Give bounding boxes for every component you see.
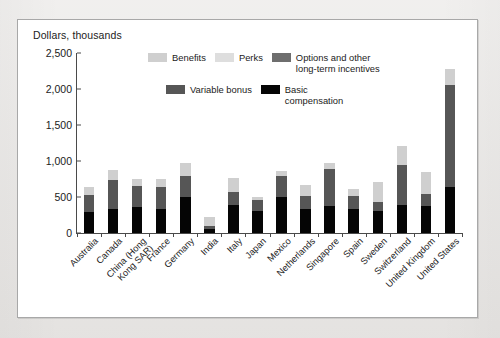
bar-group[interactable]	[348, 189, 359, 233]
bar-segment-benefits	[445, 69, 456, 85]
bar-group[interactable]	[252, 197, 263, 233]
bar-segment-variable	[84, 195, 95, 212]
x-axis-label: Australia	[68, 236, 101, 269]
y-tick-label: 1,000	[46, 155, 72, 167]
y-axis-title: Dollars, thousands	[33, 29, 122, 41]
bar-segment-basic	[132, 207, 143, 233]
x-axis-label: Japan	[244, 236, 269, 261]
bar-segment-variable	[348, 196, 359, 209]
y-tick-label: 2,500	[46, 47, 72, 59]
chart-figure-panel: Dollars, thousands Benefits Perks Option…	[17, 19, 478, 318]
bar-segment-basic	[228, 205, 239, 233]
bar-group[interactable]	[421, 172, 432, 233]
bar-segment-basic	[300, 209, 311, 233]
bar-series-container	[77, 53, 462, 233]
bar-segment-benefits	[108, 170, 119, 180]
bar-segment-variable	[228, 192, 239, 205]
x-axis-label: India	[199, 236, 220, 257]
screenshot-root: Dollars, thousands Benefits Perks Option…	[0, 0, 500, 338]
bar-segment-benefits	[204, 217, 215, 226]
bar-segment-basic	[373, 211, 384, 233]
bar-group[interactable]	[180, 163, 191, 233]
bar-segment-variable	[324, 169, 335, 206]
bar-segment-variable	[132, 186, 143, 207]
bar-group[interactable]	[373, 182, 384, 233]
bar-group[interactable]	[324, 163, 335, 233]
bar-segment-basic	[204, 229, 215, 233]
bar-segment-variable	[373, 202, 384, 210]
plot-area: 05001,0001,5002,0002,500	[76, 53, 462, 234]
bar-segment-variable	[276, 176, 287, 197]
bar-group[interactable]	[132, 179, 143, 233]
x-axis-labels: AustraliaCanadaChina (Hong Kong SAR)Fran…	[76, 236, 461, 316]
y-tick-label: 1,500	[46, 119, 72, 131]
bar-group[interactable]	[204, 217, 215, 233]
bar-segment-variable	[108, 180, 119, 209]
bar-group[interactable]	[397, 146, 408, 233]
bar-segment-basic	[348, 209, 359, 233]
bar-segment-basic	[276, 197, 287, 233]
y-tick-label: 2,000	[46, 83, 72, 95]
bar-segment-variable	[156, 187, 167, 209]
bar-segment-basic	[397, 205, 408, 233]
bar-segment-benefits	[180, 163, 191, 176]
bar-segment-basic	[108, 209, 119, 233]
bar-group[interactable]	[445, 69, 456, 233]
bar-group[interactable]	[84, 187, 95, 233]
bar-segment-basic	[445, 187, 456, 233]
y-tick-label: 0	[66, 227, 72, 239]
bar-segment-benefits	[228, 178, 239, 192]
bar-segment-basic	[84, 212, 95, 233]
bar-segment-basic	[252, 211, 263, 233]
bar-segment-benefits	[373, 182, 384, 203]
bar-segment-benefits	[84, 187, 95, 195]
bar-segment-variable	[180, 176, 191, 197]
bar-segment-variable	[445, 85, 456, 187]
bar-segment-benefits	[397, 146, 408, 164]
bar-segment-basic	[156, 209, 167, 233]
bar-segment-variable	[421, 194, 432, 206]
bar-group[interactable]	[228, 178, 239, 233]
bar-group[interactable]	[300, 185, 311, 233]
bar-segment-benefits	[300, 185, 311, 196]
bar-segment-benefits	[421, 172, 432, 194]
bar-segment-basic	[180, 197, 191, 233]
bar-group[interactable]	[108, 170, 119, 233]
y-tick-label: 500	[54, 191, 72, 203]
bar-segment-variable	[397, 165, 408, 205]
bar-segment-benefits	[156, 179, 167, 187]
x-axis-label: Italy	[225, 236, 244, 255]
bar-segment-basic	[421, 206, 432, 233]
bar-segment-variable	[252, 200, 263, 212]
bar-segment-benefits	[132, 179, 143, 187]
bar-segment-variable	[300, 196, 311, 209]
bar-group[interactable]	[276, 171, 287, 233]
bar-segment-basic	[324, 206, 335, 233]
x-tick-mark	[462, 233, 463, 237]
bar-group[interactable]	[156, 179, 167, 233]
